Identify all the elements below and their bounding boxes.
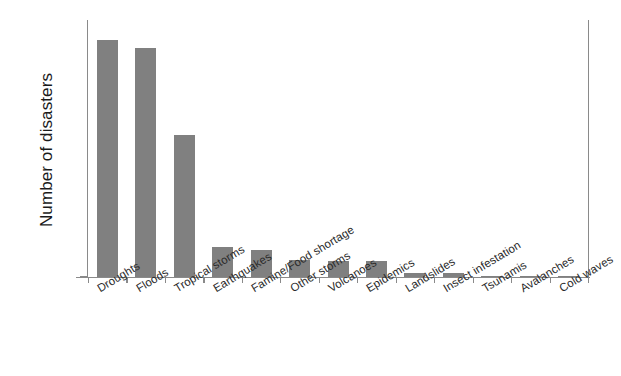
y-axis-title: Number of disasters bbox=[37, 15, 57, 285]
y-tick-mark bbox=[80, 276, 87, 277]
x-tick-mark bbox=[88, 277, 89, 283]
bar bbox=[97, 40, 118, 277]
bar-chart: Number of disasters 18016014012010080604… bbox=[0, 0, 621, 376]
bar bbox=[135, 48, 156, 278]
bar bbox=[174, 135, 195, 277]
